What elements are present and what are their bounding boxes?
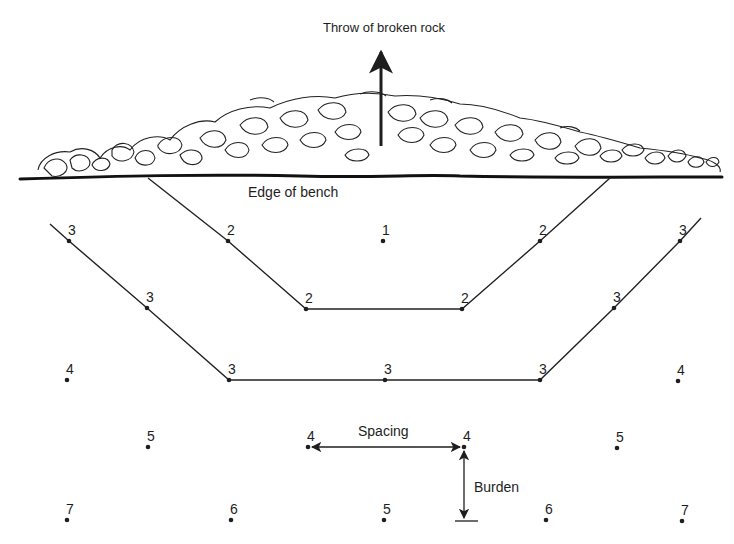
- hole-dot-icon: [381, 239, 386, 244]
- hole-delay-number: 4: [307, 428, 315, 444]
- blast-hole: 5: [146, 428, 155, 449]
- blast-hole: 3: [227, 361, 236, 382]
- blast-hole: 5: [615, 429, 624, 450]
- blast-pattern-diagram: Throw of broken rock: [0, 0, 734, 544]
- blast-hole: 5: [382, 501, 391, 522]
- hole-delay-number: 7: [681, 502, 689, 518]
- hole-dot-icon: [229, 518, 234, 523]
- figure-title: Throw of broken rock: [323, 20, 446, 35]
- blast-hole: 2: [538, 222, 547, 243]
- hole-delay-number: 7: [66, 501, 74, 517]
- hole-delay-number: 3: [68, 222, 76, 238]
- hole-delay-number: 2: [227, 222, 235, 238]
- delay-2-boundary-line: [148, 178, 610, 309]
- blast-hole: 2: [460, 290, 469, 311]
- hole-delay-number: 2: [461, 290, 469, 306]
- blast-hole: 3: [67, 222, 76, 243]
- hole-dot-icon: [382, 518, 387, 523]
- hole-dot-icon: [612, 306, 617, 311]
- blast-holes: 32123322343334544576567: [65, 222, 689, 523]
- hole-delay-number: 5: [147, 428, 155, 444]
- bench-edge-line: [20, 175, 722, 179]
- hole-delay-number: 2: [539, 222, 547, 238]
- hole-delay-number: 5: [383, 501, 391, 517]
- hole-dot-icon: [538, 239, 543, 244]
- blast-hole: 4: [676, 362, 685, 383]
- hole-delay-number: 1: [382, 222, 390, 238]
- hole-delay-number: 6: [545, 501, 553, 517]
- hole-dot-icon: [65, 378, 70, 383]
- hole-dot-icon: [383, 378, 388, 383]
- hole-delay-number: 3: [613, 289, 621, 305]
- hole-delay-number: 4: [463, 428, 471, 444]
- blast-hole: 7: [65, 501, 74, 522]
- blast-hole: 6: [229, 501, 238, 522]
- blast-hole: 2: [226, 222, 235, 243]
- blast-hole: 1: [381, 222, 390, 243]
- hole-dot-icon: [306, 445, 311, 450]
- bench-edge-label: Edge of bench: [248, 184, 338, 200]
- hole-delay-number: 3: [228, 361, 236, 377]
- hole-delay-number: 3: [539, 361, 547, 377]
- blast-hole: 2: [304, 290, 313, 311]
- blast-hole: 4: [462, 428, 471, 449]
- burden-label: Burden: [474, 479, 519, 495]
- hole-delay-number: 4: [66, 361, 74, 377]
- hole-dot-icon: [680, 519, 685, 524]
- broken-rock-pile: [38, 92, 720, 177]
- hole-dot-icon: [226, 239, 231, 244]
- hole-dot-icon: [227, 378, 232, 383]
- hole-delay-number: 3: [146, 289, 154, 305]
- blast-hole: 4: [306, 428, 315, 449]
- hole-delay-number: 3: [679, 222, 687, 238]
- hole-dot-icon: [462, 445, 467, 450]
- hole-dot-icon: [538, 378, 543, 383]
- hole-delay-number: 4: [677, 362, 685, 378]
- hole-dot-icon: [304, 307, 309, 312]
- spacing-label: Spacing: [358, 423, 409, 439]
- blast-hole: 4: [65, 361, 74, 382]
- hole-delay-number: 5: [616, 429, 624, 445]
- hole-dot-icon: [678, 239, 683, 244]
- blast-hole: 3: [145, 289, 154, 310]
- hole-delay-number: 3: [384, 361, 392, 377]
- blast-hole: 6: [544, 501, 553, 522]
- hole-dot-icon: [67, 239, 72, 244]
- hole-dot-icon: [65, 518, 70, 523]
- hole-dot-icon: [146, 445, 151, 450]
- hole-dot-icon: [460, 307, 465, 312]
- blast-hole: 3: [612, 289, 621, 310]
- blast-hole: 3: [538, 361, 547, 382]
- hole-delay-number: 6: [230, 501, 238, 517]
- hole-dot-icon: [615, 446, 620, 451]
- hole-dot-icon: [544, 518, 549, 523]
- hole-dot-icon: [145, 306, 150, 311]
- hole-dot-icon: [676, 379, 681, 384]
- blast-hole: 3: [383, 361, 392, 382]
- blast-hole: 7: [680, 502, 689, 523]
- blast-hole: 3: [678, 222, 687, 243]
- hole-delay-number: 2: [305, 290, 313, 306]
